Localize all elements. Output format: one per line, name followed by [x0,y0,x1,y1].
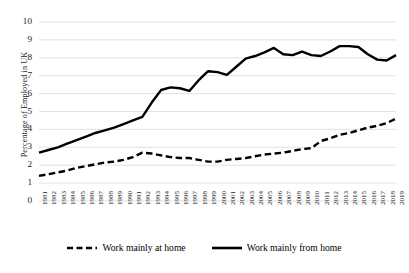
x-tick-label: 2017 [380,191,387,205]
y-tick-label: 7 [12,71,32,80]
x-tick-label: 1986 [89,191,96,205]
x-tick-label: 2011 [324,191,331,205]
chart-legend: Work mainly at home Work mainly from hom… [0,243,409,253]
legend-label-1: Work mainly from home [247,243,342,253]
x-tick-label: 2016 [371,191,378,205]
chart-container: Percentage of Employed in UK 01234567891… [0,0,409,273]
x-tick-label: 1985 [80,191,87,205]
y-tick-label: 4 [12,124,32,133]
x-tick-label: 2000 [221,191,228,205]
series-line-1 [39,46,396,153]
y-tick-label: 6 [12,89,32,98]
x-tick-label: 1994 [164,191,171,205]
x-tick-label: 2013 [343,191,350,205]
legend-solid-line-icon [212,243,242,253]
x-tick-label: 2008 [296,191,303,205]
y-tick-label: 2 [12,160,32,169]
x-tick-label: 1987 [98,191,105,205]
x-tick-label: 2014 [352,191,359,205]
chart-plot-area [0,0,409,273]
y-tick-label: 8 [12,53,32,62]
x-tick-label: 2019 [399,191,406,205]
legend-dashed-line-icon [67,243,97,253]
series-lines [39,46,396,176]
x-tick-label: 1981 [42,191,49,205]
y-tick-label: 1 [12,178,32,187]
x-tick-label: 2001 [230,191,237,205]
legend-item-work-mainly-at-home[interactable]: Work mainly at home [67,243,185,253]
x-tick-label: 1990 [127,191,134,205]
x-tick-label: 1997 [192,191,199,205]
x-tick-label: 2007 [286,191,293,205]
x-tick-label: 1982 [51,191,58,205]
x-tick-label: 2010 [314,191,321,205]
x-tick-label: 2015 [361,191,368,205]
y-tick-label: 3 [12,142,32,151]
y-tick-label: 5 [12,107,32,116]
x-tick-label: 1984 [70,191,77,205]
gridlines [39,22,396,201]
legend-item-work-mainly-from-home[interactable]: Work mainly from home [212,243,342,253]
x-tick-label: 1991 [136,191,143,205]
legend-label-0: Work mainly at home [102,243,185,253]
x-tick-label: 1998 [202,191,209,205]
x-tick-label: 1992 [145,191,152,205]
x-tick-label: 1995 [174,191,181,205]
y-tick-label: 0 [12,196,32,205]
x-tick-label: 1989 [117,191,124,205]
x-tick-label: 2009 [305,191,312,205]
y-tick-label: 10 [12,17,32,26]
x-tick-label: 1996 [183,191,190,205]
x-tick-label: 2003 [249,191,256,205]
x-tick-label: 1983 [61,191,68,205]
y-tick-label: 9 [12,35,32,44]
x-tick-label: 2004 [258,191,265,205]
x-tick-label: 1993 [155,191,162,205]
x-tick-label: 1999 [211,191,218,205]
x-tick-label: 2018 [390,191,397,205]
x-tick-label: 1988 [108,191,115,205]
x-tick-label: 2006 [277,191,284,205]
x-tick-label: 2005 [267,191,274,205]
x-tick-label: 2002 [239,191,246,205]
x-tick-label: 2012 [333,191,340,205]
